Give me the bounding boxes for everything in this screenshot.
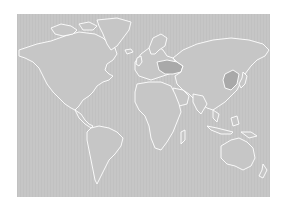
world-map-svg — [17, 14, 270, 197]
world-map — [17, 14, 270, 197]
